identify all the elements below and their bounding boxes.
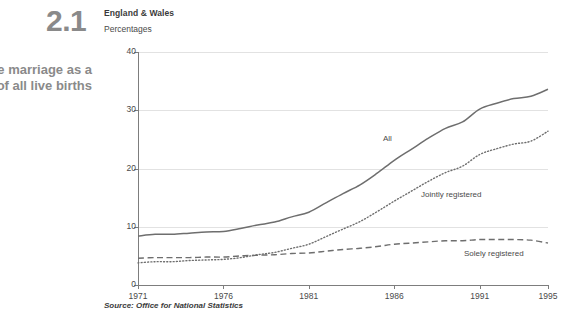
figure-title-line-2: of all live births (0, 78, 92, 94)
x-axis-tick-label: 1995 (539, 291, 558, 301)
y-axis-tick-label: 20 (96, 163, 136, 173)
y-axis-tick-label: 40 (96, 46, 136, 56)
x-axis-tick-label: 1991 (470, 291, 489, 301)
y-axis-line (138, 52, 139, 286)
chart-series-layer (0, 0, 563, 317)
figure-title: de marriage as a of all live births (0, 62, 92, 94)
x-axis-tick-label: 1981 (299, 291, 318, 301)
series-label-solely-registered: Solely registered (464, 249, 524, 258)
figure-panel: 2.1 de marriage as a of all live births … (0, 0, 563, 317)
source-note: Source: Office for National Statistics (104, 301, 243, 310)
x-axis-tick-label: 1986 (385, 291, 404, 301)
gridline (138, 110, 548, 111)
x-axis-line (138, 285, 549, 286)
x-axis-tick (309, 285, 310, 289)
x-axis-tick (480, 285, 481, 289)
x-axis-tick (394, 285, 395, 289)
gridline (138, 227, 548, 228)
gridline (138, 169, 548, 170)
chart-units-label: Percentages (104, 24, 152, 34)
series-line-all (138, 89, 548, 236)
x-axis-tick (548, 285, 549, 289)
x-axis-tick-label: 1976 (214, 291, 233, 301)
y-axis-tick-label: 10 (96, 221, 136, 231)
gridline (138, 52, 548, 53)
x-axis-tick (223, 285, 224, 289)
figure-title-line-1: de marriage as a (0, 62, 92, 78)
x-axis-tick-label: 1971 (129, 291, 148, 301)
series-line-jointly-registered (138, 131, 548, 263)
y-axis-tick-label: 30 (96, 104, 136, 114)
x-axis-tick (138, 285, 139, 289)
y-axis-tick-label: 0 (96, 279, 136, 289)
series-label-all: All (383, 134, 392, 143)
chart-region-label: England & Wales (104, 8, 174, 18)
series-label-jointly-registered: Jointly registered (421, 190, 481, 199)
figure-number: 2.1 (46, 6, 86, 36)
